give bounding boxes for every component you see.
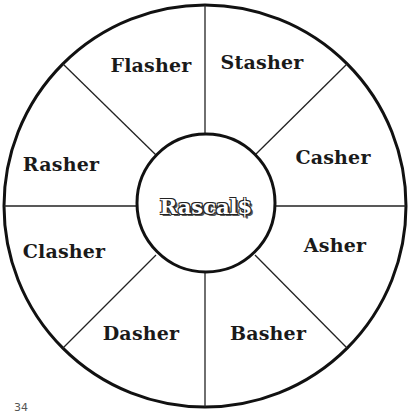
segment-label-flasher: Flasher (110, 54, 191, 76)
segment-label-asher: Asher (304, 234, 366, 256)
segment-label-rasher: Rasher (23, 153, 99, 175)
segment-label-basher: Basher (230, 322, 306, 344)
segment-label-dasher: Dasher (103, 322, 180, 344)
center-label: Rascal$ (160, 194, 252, 219)
segment-label-casher: Casher (295, 146, 370, 168)
page-number: 34 (14, 401, 28, 414)
segment-label-stasher: Stasher (221, 51, 304, 73)
segment-label-clasher: Clasher (23, 240, 106, 262)
